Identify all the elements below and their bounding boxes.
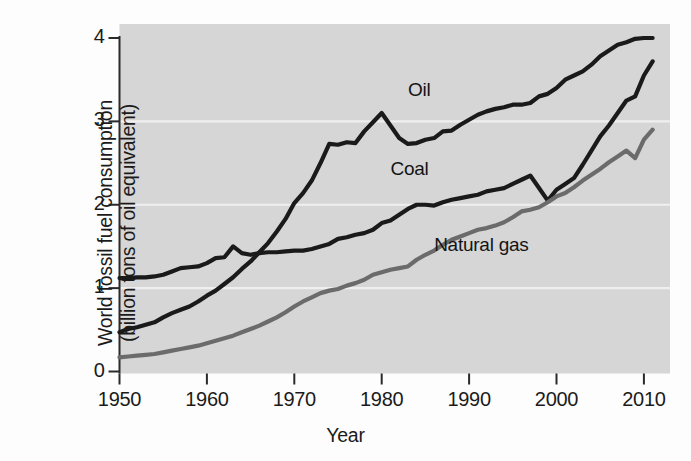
series-label-oil: Oil: [408, 79, 430, 101]
y-axis-title-line-1: World fossil fuel consumption: [94, 43, 117, 403]
x-tick-label-1950: 1950: [85, 388, 155, 411]
x-axis-title: Year: [0, 424, 691, 447]
y-tick-label-0: 0: [79, 359, 105, 382]
x-tick-label-2000: 2000: [522, 388, 592, 411]
y-tick-label-1: 1: [79, 275, 105, 298]
x-tick-label-1980: 1980: [347, 388, 417, 411]
y-tick-label-4: 4: [79, 25, 105, 48]
y-tick-label-2: 2: [79, 192, 105, 215]
y-axis-title: World fossil fuel consumption (billion t…: [94, 43, 140, 403]
x-tick-label-1960: 1960: [172, 388, 242, 411]
x-axis-title-text: Year: [326, 424, 365, 446]
y-axis-title-line-2: (billion tons of oil equivalent): [117, 43, 140, 403]
plot-background: [120, 24, 671, 374]
x-tick-label-2010: 2010: [609, 388, 679, 411]
series-label-natural-gas: Natural gas: [434, 234, 528, 256]
x-tick-label-1990: 1990: [434, 388, 504, 411]
y-tick-label-3: 3: [79, 108, 105, 131]
chart-figure: World fossil fuel consumption (billion t…: [0, 0, 691, 461]
series-label-coal: Coal: [390, 158, 428, 180]
x-tick-label-1970: 1970: [259, 388, 329, 411]
